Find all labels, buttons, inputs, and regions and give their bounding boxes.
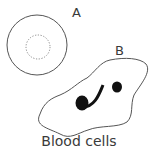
cell-b-nucleus-lobe-right xyxy=(112,82,122,93)
diagram-caption: Blood cells xyxy=(0,134,158,148)
label-b: B xyxy=(115,44,124,57)
cell-b-outline xyxy=(39,58,148,136)
cell-a-inner-ring xyxy=(26,35,50,59)
blood-cells-diagram xyxy=(0,0,158,155)
cell-a-outline xyxy=(7,15,67,75)
label-a: A xyxy=(72,6,81,19)
cell-b-nucleus-lobe-left xyxy=(76,96,89,111)
